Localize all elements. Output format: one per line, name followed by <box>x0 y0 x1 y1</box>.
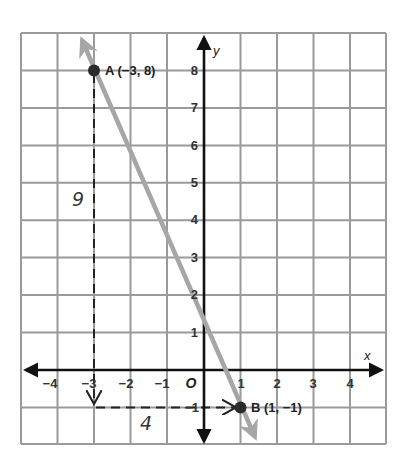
y-axis-label: y <box>212 43 221 58</box>
y-tick-5: 5 <box>191 175 198 190</box>
x-tick-4: 4 <box>346 376 354 391</box>
point-a-label: A (−3, 8) <box>105 63 155 78</box>
y-tick-8: 8 <box>191 63 198 78</box>
y-tick-neg1: −1 <box>184 400 199 415</box>
x-tick-1: 1 <box>237 376 244 391</box>
point-a-marker <box>88 65 100 77</box>
axes <box>26 38 381 441</box>
y-tick-1: 1 <box>191 325 198 340</box>
x-tick-neg4: −4 <box>43 376 59 391</box>
point-b-marker <box>235 401 247 413</box>
y-tick-6: 6 <box>191 138 198 153</box>
x-tick-3: 3 <box>309 376 316 391</box>
y-tick-7: 7 <box>191 100 198 115</box>
y-tick-4: 4 <box>191 212 199 227</box>
coordinate-graph: A (−3, 8) B (1, −1) y x −4 −3 −2 −1 O 1 … <box>0 0 409 472</box>
y-tick-labels: 8 7 6 5 4 3 2 1 −1 <box>184 63 199 415</box>
x-tick-labels: −4 −3 −2 −1 O 1 2 3 4 <box>43 375 355 391</box>
y-tick-3: 3 <box>191 250 198 265</box>
x-tick-2: 2 <box>273 376 280 391</box>
x-tick-neg3: −3 <box>82 376 97 391</box>
point-b-label: B (1, −1) <box>251 400 302 415</box>
x-axis-label: x <box>363 348 371 363</box>
x-tick-neg2: −2 <box>119 376 134 391</box>
rise-run-guides <box>94 74 236 407</box>
origin-label: O <box>186 375 197 391</box>
x-tick-neg1: −1 <box>155 376 170 391</box>
run-label: 4 <box>140 412 152 434</box>
y-tick-2: 2 <box>191 287 198 302</box>
rise-label: 9 <box>72 188 84 210</box>
